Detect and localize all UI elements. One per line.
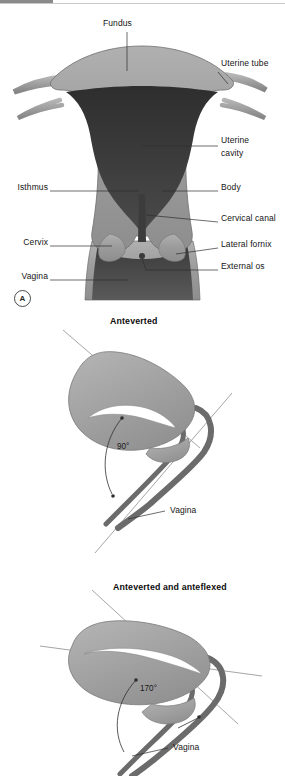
angle-label-b: 90° [117, 442, 129, 451]
angle-arc-start-dot-b [120, 416, 124, 420]
label-uterine-cavity-line1: Uterine [221, 135, 249, 146]
label-cervix: Cervix [0, 237, 48, 248]
panel-c-anteverted-anteflexed: Anteverted and anteflexed [0, 558, 285, 776]
angle-arc-end-dot-c [197, 715, 201, 719]
panel-b-anteverted: Anteverted [0, 308, 285, 558]
label-fundus: Fundus [103, 18, 132, 29]
uterine-tube-left-lower [18, 100, 62, 118]
anatomy-figure: Fundus Uterine tube Uterine cavity Isthm… [0, 0, 285, 776]
panel-b-illustration [0, 308, 285, 558]
cervical-canal-shape [138, 194, 146, 242]
header-divider-line [0, 3, 285, 4]
label-external-os: External os [221, 261, 265, 272]
anteverted-svg [0, 308, 285, 558]
angle-arc-start-dot-c [134, 678, 138, 682]
label-vagina-panel-c: Vagina [173, 742, 199, 753]
uterine-tube-right-lower [222, 100, 265, 118]
label-uterine-tube: Uterine tube [221, 58, 269, 69]
label-cervical-canal: Cervical canal [221, 213, 276, 224]
label-vagina-panel-b: Vagina [170, 505, 196, 516]
uterus-body-shape-b [69, 352, 195, 451]
label-lateral-fornix: Lateral fornix [221, 239, 272, 250]
angle-arc-end-dot-b [111, 494, 115, 498]
label-vagina-panel-a: Vagina [0, 271, 48, 282]
panel-a-coronal-section: Fundus Uterine tube Uterine cavity Isthm… [0, 8, 285, 308]
label-body: Body [221, 182, 241, 193]
label-uterine-cavity-line2: cavity [221, 148, 243, 159]
panel-letter-a: A [14, 290, 31, 307]
anteflexed-svg [0, 558, 285, 776]
panel-c-illustration [0, 558, 285, 776]
angle-label-c: 170° [140, 684, 157, 693]
label-isthmus: Isthmus [0, 182, 48, 193]
